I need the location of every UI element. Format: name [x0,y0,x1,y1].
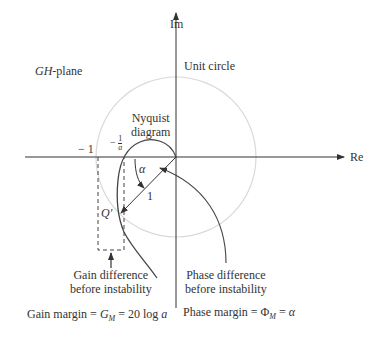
pm-symbol: Φ [261,305,270,319]
gm-symbol: G [100,307,109,321]
unit-radius-line [121,157,176,213]
nyquist-label-line2: diagram [131,125,170,139]
plane-label-gh: GH [35,64,52,78]
fraction-den: a [118,144,122,152]
alpha-label: α [139,162,145,176]
unit-circle-label: Unit circle [184,59,235,73]
one-label: 1 [147,189,153,203]
gain-difference-label: Gain difference before instability [70,268,152,296]
gm-var: a [161,307,167,321]
nyquist-label: Nyquist diagram [131,111,170,139]
phase-difference-curve [160,168,226,263]
minus-one-label: − 1 [78,142,94,156]
phase-diff-line1: Phase difference [185,268,267,282]
phase-difference-label: Phase difference before instability [185,268,267,296]
nyquist-curve [117,140,176,278]
phase-margin-formula: Phase margin = ΦM = α [183,305,295,324]
plane-label-rest: -plane [52,64,82,78]
minus-inv-a-label: − 1 a [110,135,122,152]
gain-diff-line1: Gain difference [70,268,152,282]
phase-diff-line2: before instability [185,282,267,296]
im-axis-label: Im [170,17,183,31]
q-prime-label: Q′ [101,206,112,220]
pm-sub: M [269,312,276,321]
nyquist-label-line1: Nyquist [131,111,170,125]
gm-prefix: Gain margin = [27,307,100,321]
re-axis-label: Re [350,150,363,164]
gain-diff-line2: before instability [70,282,152,296]
minus-sign: − [110,137,116,148]
pm-var: α [289,305,295,319]
plane-label: GH-plane [35,64,82,78]
gain-margin-formula: Gain margin = GM = 20 log a [27,307,167,326]
pm-prefix: Phase margin = [183,305,261,319]
pm-rest: = [276,305,289,319]
gm-rest: = 20 log [115,307,161,321]
